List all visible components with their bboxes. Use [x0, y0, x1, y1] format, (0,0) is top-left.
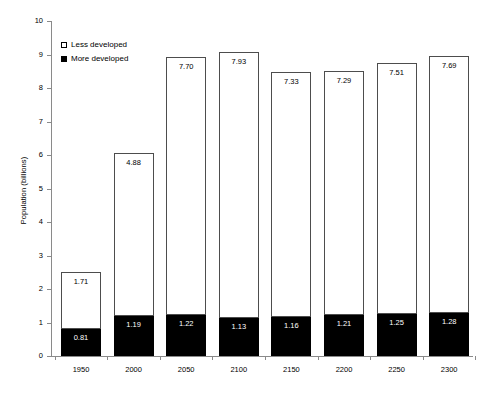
y-axis-tick-label: 5	[39, 184, 43, 193]
y-axis-tick-mark	[47, 155, 51, 156]
bar-value-label: 7.51	[378, 68, 416, 77]
bar-group[interactable]: 7.931.13	[219, 52, 259, 356]
bar-segment-less-developed[interactable]: 7.70	[166, 57, 206, 315]
bar-value-label: 1.13	[220, 322, 258, 331]
y-axis-tick-label: 2	[39, 284, 43, 293]
bar-value-label: 7.69	[430, 61, 468, 70]
x-axis-tick-label: 2300	[422, 365, 476, 375]
bar-segment-less-developed[interactable]: 7.33	[271, 72, 311, 318]
y-axis-tick-label: 0	[39, 351, 43, 360]
x-axis-tick-mark	[55, 356, 56, 360]
bar-segment-less-developed[interactable]: 7.93	[219, 52, 259, 318]
bar-value-label: 1.21	[325, 319, 363, 328]
y-axis-line	[51, 21, 52, 357]
x-axis-tick-label: 2200	[317, 365, 371, 375]
bar-value-label: 1.71	[62, 277, 100, 286]
bar-value-label: 7.29	[325, 76, 363, 85]
bar-segment-less-developed[interactable]: 7.29	[324, 71, 364, 315]
bar-segment-more-developed[interactable]: 1.19	[114, 316, 154, 356]
bar-value-label: 1.28	[430, 317, 468, 326]
bar-value-label: 1.19	[115, 320, 153, 329]
bar-group[interactable]: 7.331.16	[271, 72, 311, 356]
x-axis-tick-mark	[107, 356, 108, 360]
population-stacked-bar-chart: Population (billions) 012345678910 19502…	[0, 0, 493, 405]
bar-segment-more-developed[interactable]: 1.21	[324, 315, 364, 356]
bar-group[interactable]: 7.691.28	[429, 56, 469, 356]
x-axis-tick-mark	[318, 356, 319, 360]
bar-segment-more-developed[interactable]: 1.13	[219, 318, 259, 356]
bar-segment-less-developed[interactable]: 7.51	[377, 63, 417, 315]
bar-value-label: 0.81	[62, 333, 100, 342]
bar-segment-more-developed[interactable]: 1.22	[166, 315, 206, 356]
bar-group[interactable]: 4.881.19	[114, 153, 154, 356]
y-axis-tick-label: 1	[39, 318, 43, 327]
bar-group[interactable]: 1.710.81	[61, 272, 101, 356]
x-axis-tick-label: 2050	[159, 365, 213, 375]
y-axis-tick-mark	[47, 289, 51, 290]
y-axis-tick-mark	[47, 21, 51, 22]
y-axis-tick-label: 8	[39, 83, 43, 92]
y-axis-tick-label: 6	[39, 150, 43, 159]
bar-segment-more-developed[interactable]: 1.25	[377, 314, 417, 356]
legend-label: More developed	[71, 54, 128, 64]
bar-segment-more-developed[interactable]: 1.16	[271, 317, 311, 356]
bar-segment-less-developed[interactable]: 1.71	[61, 272, 101, 329]
y-axis-tick-mark	[47, 122, 51, 123]
bar-value-label: 7.33	[272, 77, 310, 86]
x-axis-tick-mark	[370, 356, 371, 360]
y-axis-tick-mark	[47, 55, 51, 56]
bar-value-label: 7.93	[220, 57, 258, 66]
x-axis-tick-mark	[212, 356, 213, 360]
y-axis-tick-mark	[47, 189, 51, 190]
bar-segment-more-developed[interactable]: 0.81	[61, 329, 101, 356]
x-axis-tick-label: 1950	[54, 365, 108, 375]
y-axis-tick-label: 7	[39, 117, 43, 126]
y-axis-tick-label: 9	[39, 50, 43, 59]
x-axis-tick-mark	[475, 356, 476, 360]
legend-item-more-developed: More developed	[61, 53, 128, 65]
y-axis-tick-label: 4	[39, 217, 43, 226]
y-axis-tick-mark	[47, 256, 51, 257]
bar-group[interactable]: 7.291.21	[324, 71, 364, 356]
y-axis-tick-label: 3	[39, 251, 43, 260]
bar-segment-less-developed[interactable]: 4.88	[114, 153, 154, 316]
bar-value-label: 7.70	[167, 62, 205, 71]
bar-group[interactable]: 7.701.22	[166, 57, 206, 356]
y-axis-tick-mark	[47, 222, 51, 223]
bar-value-label: 4.88	[115, 158, 153, 167]
x-axis-tick-mark	[265, 356, 266, 360]
x-axis-tick-mark	[160, 356, 161, 360]
x-axis-tick-label: 2000	[107, 365, 161, 375]
chart-legend: Less developed More developed	[61, 39, 128, 67]
x-axis-tick-mark	[423, 356, 424, 360]
x-axis-tick-label: 2150	[264, 365, 318, 375]
filled-square-icon	[61, 56, 67, 62]
y-axis-tick-label: 10	[35, 16, 43, 25]
legend-item-less-developed: Less developed	[61, 39, 128, 51]
bar-value-label: 1.16	[272, 321, 310, 330]
bar-group[interactable]: 7.511.25	[377, 63, 417, 356]
x-axis-tick-label: 2100	[212, 365, 266, 375]
open-square-icon	[61, 42, 67, 48]
y-axis-title: Population (billions)	[19, 121, 28, 261]
bar-segment-less-developed[interactable]: 7.69	[429, 56, 469, 314]
bar-segment-more-developed[interactable]: 1.28	[429, 313, 469, 356]
legend-label: Less developed	[71, 40, 127, 50]
bar-value-label: 1.22	[167, 319, 205, 328]
y-axis-tick-mark	[47, 88, 51, 89]
y-axis-tick-mark	[47, 323, 51, 324]
x-axis-line	[51, 356, 473, 357]
bar-value-label: 1.25	[378, 318, 416, 327]
x-axis-tick-label: 2250	[370, 365, 424, 375]
y-axis-tick-mark	[47, 356, 51, 357]
